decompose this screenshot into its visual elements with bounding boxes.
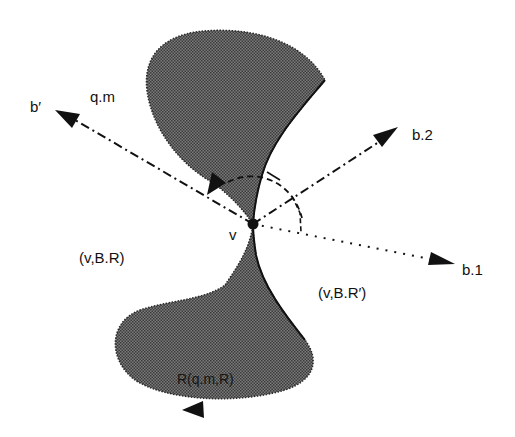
region-diagram: b′ q.m b.2 b.1 v (v,B.R) (v,B.R′) R(q.m,…: [0, 0, 515, 437]
ray-b1: [253, 224, 435, 260]
vertex-point: [248, 219, 259, 230]
label-right-region: (v,B.R′): [318, 284, 366, 301]
label-b2: b.2: [412, 126, 433, 143]
label-v: v: [229, 226, 237, 243]
label-b-prime: b′: [30, 98, 41, 115]
label-left-region: (v,B.R): [79, 249, 125, 266]
angle-marker: [292, 196, 301, 232]
arrowhead-region-icon: [182, 401, 204, 418]
label-qm: q.m: [90, 88, 115, 105]
arrowhead-b1-icon: [428, 252, 455, 265]
region-upper-lobe: [146, 30, 325, 224]
label-b1: b.1: [462, 261, 483, 278]
label-region-name: R(q.m,R): [177, 371, 234, 387]
arrowhead-b-prime-icon: [55, 110, 80, 128]
